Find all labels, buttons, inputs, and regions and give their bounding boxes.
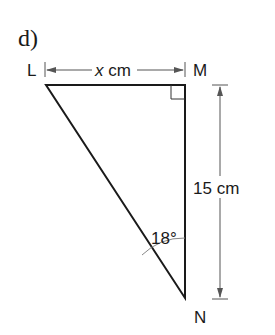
vertex-m-label: M <box>193 62 207 79</box>
var-x: x <box>95 61 104 80</box>
right-angle-marker <box>171 85 185 99</box>
vertex-l-label: L <box>27 62 36 79</box>
unit-cm: cm <box>108 61 131 80</box>
top-dimension-label: x cm <box>95 62 131 79</box>
vertex-n-label: N <box>194 309 206 326</box>
angle-label: 18° <box>151 230 177 247</box>
triangle-diagram <box>0 0 275 335</box>
triangle-lmn <box>46 85 185 298</box>
right-dimension-label: 15 cm <box>193 180 239 197</box>
